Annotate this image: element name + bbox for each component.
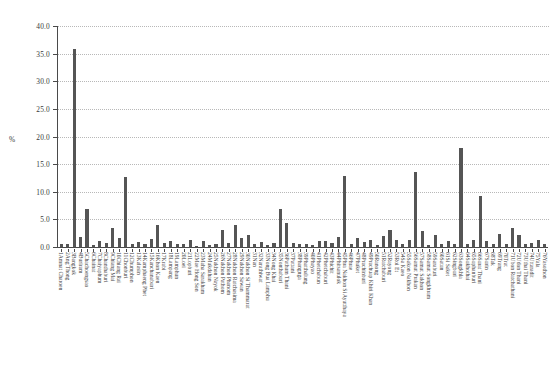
x-tick-label: 13Kalasin xyxy=(135,252,141,275)
bar-series xyxy=(58,26,548,247)
x-tick-label: 30Nakhon Si Thammarat xyxy=(245,252,251,308)
x-tick-label: 69Trang xyxy=(496,252,502,271)
x-tick-label: 33Nong Bua Lamphu xyxy=(264,252,270,300)
x-tick-label: 41Phetchabun xyxy=(316,252,322,284)
x-tick-label: 39Phatthalung xyxy=(303,252,309,284)
x-axis-line xyxy=(57,247,548,248)
x-tick-label: 57Samut Sakhon xyxy=(419,252,425,290)
bar xyxy=(434,235,437,247)
x-tick-label: 26Nakhon Pathom xyxy=(219,252,225,294)
x-tick-label: 63Songkhla xyxy=(457,252,463,279)
bar xyxy=(537,240,540,247)
x-tick-label: 10Chiang Rai xyxy=(116,252,122,283)
x-tick-label: 22Mae Hong Son xyxy=(193,252,199,291)
bar xyxy=(124,177,127,247)
bar xyxy=(150,239,153,247)
bar xyxy=(156,225,159,247)
x-tick-label: 60Satun xyxy=(438,252,444,270)
x-tick-label: 31Nan xyxy=(251,252,257,267)
x-tick-label: 5Chachoengsao xyxy=(84,252,90,287)
x-tick-label: 55Sakon Nakhon xyxy=(406,252,412,291)
y-tick-label: 15.0 xyxy=(0,160,50,169)
bar xyxy=(234,225,237,247)
x-tick-label: 76Yasothon xyxy=(541,252,547,278)
bar xyxy=(343,176,346,247)
x-tick-label: 65Suphanburi xyxy=(470,252,476,283)
x-tick-label: 46Phrae xyxy=(348,252,354,270)
x-tick-label: 53Roi Et xyxy=(393,252,399,272)
y-tick-label: 0.0 xyxy=(0,243,50,252)
bar xyxy=(517,235,520,247)
y-tick-label: 5.0 xyxy=(0,215,50,224)
x-tick-label: 37Pattani xyxy=(290,252,296,273)
x-tick-label: 50Ranong xyxy=(374,252,380,275)
bar xyxy=(279,209,282,247)
x-tick-label: 18Lampang xyxy=(167,252,173,279)
y-tick-label: 35.0 xyxy=(0,50,50,59)
x-tick-label: 4Buriram xyxy=(77,252,83,273)
bar xyxy=(408,240,411,247)
x-tick-label: 19Lamphun xyxy=(174,252,180,279)
x-tick-label: 32Narathiwat xyxy=(258,252,264,282)
x-tick-label: 2Ang Thong xyxy=(64,252,70,280)
y-tick-label: 30.0 xyxy=(0,77,50,86)
y-tick-label: 40.0 xyxy=(0,22,50,31)
x-tick-label: 75Yala xyxy=(535,252,541,268)
bar xyxy=(221,230,224,247)
x-tick-label: 16Khon Kaen xyxy=(154,252,160,283)
x-tick-label: 45Phra Nakhon Si Ayutthaya xyxy=(341,252,347,317)
bar xyxy=(356,238,359,247)
x-tick-label: 8Chanthaburi xyxy=(103,252,109,282)
bar xyxy=(247,235,250,247)
x-tick-label: 43Phichit xyxy=(329,252,335,273)
bar xyxy=(511,228,514,247)
bar xyxy=(111,228,114,247)
bar xyxy=(421,231,424,247)
x-tick-label: 74Uttaradit xyxy=(528,252,534,277)
x-tick-label: 21Lopburi xyxy=(187,252,193,276)
y-tick-label: 25.0 xyxy=(0,105,50,114)
chart-figure: % 0.05.010.015.020.025.030.035.040.0 1Am… xyxy=(0,0,559,370)
bar xyxy=(337,237,340,247)
x-tick-label: 58Samut Songkhram xyxy=(425,252,431,299)
bar xyxy=(395,240,398,247)
x-tick-label: 40Phayao xyxy=(309,252,315,274)
x-tick-label: 64Sukhothai xyxy=(464,252,470,280)
bar xyxy=(73,49,76,247)
x-tick-label: 11Chonburi xyxy=(122,252,128,279)
x-tick-label: 35Nonthaburi xyxy=(277,252,283,283)
bar xyxy=(240,238,243,247)
x-tick-label: 1Amnat Charoen xyxy=(58,252,64,290)
x-axis-labels: 1Amnat Charoen2Ang Thong3Bangkok4Buriram… xyxy=(58,249,548,359)
x-tick-label: 28Nakhon Ratchasima xyxy=(232,252,238,303)
x-tick-label: 70Trat xyxy=(503,252,509,267)
x-tick-label: 14Kamphaeng Phet xyxy=(142,252,148,296)
bar xyxy=(388,230,391,247)
x-tick-label: 52Rayong xyxy=(387,252,393,275)
x-tick-label: 66Surat Thani xyxy=(477,252,483,284)
x-tick-label: 59Saraburi xyxy=(432,252,438,277)
x-tick-label: 23Maha Sarakham xyxy=(200,252,206,294)
x-tick-label: 68Tak xyxy=(490,252,496,266)
y-tick-label: 10.0 xyxy=(0,188,50,197)
x-tick-label: 24Mukdahan xyxy=(206,252,212,282)
x-tick-label: 27Nakhon Phanom xyxy=(225,252,231,295)
x-tick-label: 44Phitsanulok xyxy=(335,252,341,284)
bar xyxy=(498,234,501,247)
x-tick-label: 49Prachuap Khiri Khan xyxy=(367,252,373,305)
x-tick-label: 12Chumphon xyxy=(129,252,135,282)
x-tick-label: 73Uthai Thani xyxy=(522,252,528,284)
bar xyxy=(472,240,475,247)
x-tick-label: 36Pathum Thani xyxy=(283,252,289,289)
x-tick-label: 51Ratchaburi xyxy=(380,252,386,282)
x-tick-label: 42Phetchaburi xyxy=(322,252,328,284)
y-tick-label: 20.0 xyxy=(0,133,50,142)
bar xyxy=(285,223,288,247)
x-tick-label: 34Nong Khai xyxy=(270,252,276,282)
x-tick-label: 9Chiang Mai xyxy=(109,252,115,281)
x-tick-label: 48Prachinburi xyxy=(361,252,367,284)
bar xyxy=(79,237,82,247)
x-tick-label: 17Krabi xyxy=(161,252,167,270)
bar xyxy=(479,196,482,247)
x-tick-label: 61Si Saket xyxy=(445,252,451,276)
